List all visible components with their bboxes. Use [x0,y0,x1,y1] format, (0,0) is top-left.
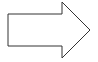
right-arrow-icon [8,2,90,58]
arrow-diagram [0,0,98,62]
